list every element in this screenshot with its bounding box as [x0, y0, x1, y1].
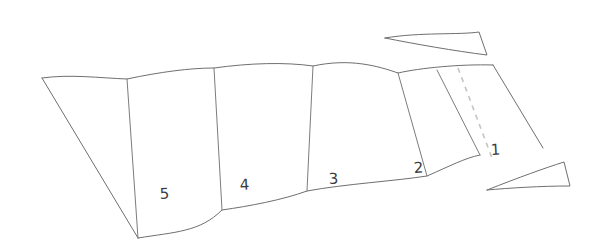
panel-label-1: 1	[490, 141, 500, 159]
sliver-top-right-shape	[385, 32, 487, 55]
folded-sheet-diagram: 5 4 3 2 1	[0, 0, 609, 252]
figure-canvas: 5 4 3 2 1	[0, 0, 609, 252]
panel-face-4	[214, 66, 313, 210]
panel-faces-group	[127, 65, 543, 238]
panel-label-4: 4	[239, 176, 249, 194]
panel-label-2: 2	[413, 159, 423, 177]
panel-label-5: 5	[159, 185, 169, 203]
panel-label-3: 3	[328, 170, 338, 188]
sliver-bottom-right-shape	[487, 162, 570, 190]
sheet-left-edge	[42, 78, 138, 238]
panel-face-5	[127, 68, 222, 238]
